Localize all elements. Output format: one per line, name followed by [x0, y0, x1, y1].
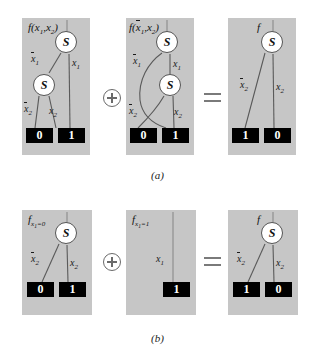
panel-a3: f S x2 x2 1 0: [228, 18, 296, 155]
terminal-value: 1: [173, 128, 179, 143]
panel-b2-function-sub: x1=1: [135, 220, 149, 228]
panel-b1-edge-label-x2: x2: [70, 258, 78, 271]
panel-a1-edge-label-notx2: x2: [24, 104, 32, 117]
panel-a2-terminal-0: 0: [130, 128, 157, 143]
terminal-value: 1: [70, 282, 76, 297]
panel-a1-node-top: S: [55, 31, 77, 53]
panel-b1-node-top: S: [55, 222, 77, 244]
caption-b: (b): [0, 333, 315, 344]
panel-a2-node-top: S: [156, 31, 178, 53]
terminal-value: 0: [37, 128, 43, 143]
panel-b2-terminal-1: 1: [163, 282, 190, 297]
panel-a3-edge-label-x2: x2: [276, 82, 284, 95]
panel-a1-edge-label-notx1: x1: [31, 54, 39, 67]
panel-b3-terminal-1: 1: [233, 282, 260, 297]
panel-b2: fx1=1 x1 1: [126, 210, 196, 315]
terminal-value: 0: [275, 128, 281, 143]
panel-a2-terminal-1: 1: [162, 128, 189, 143]
terminal-value: 0: [276, 282, 282, 297]
equals-icon: [204, 257, 221, 266]
panel-a3-terminal-1: 1: [232, 128, 259, 143]
node-symbol: S: [41, 79, 48, 91]
panel-a2-node-lower: S: [159, 74, 181, 96]
terminal-value: 1: [243, 128, 249, 143]
panel-b1: fx1=0 S x2 x2 0 1: [22, 210, 92, 315]
caption-a: (a): [0, 170, 315, 181]
panel-b1-terminal-0: 0: [27, 282, 54, 297]
terminal-value: 1: [174, 282, 180, 297]
panel-a1-edge-label-x1: x1: [72, 58, 80, 71]
panel-b2-function-label: fx1=1: [132, 214, 149, 230]
panel-b1-function-sub: x1=0: [31, 220, 45, 228]
panel-a1-terminal-1: 1: [58, 128, 85, 143]
panel-b3-terminal-0: 0: [265, 282, 292, 297]
panel-a2: f(x1,x2) S S x1 x1 x2 x2 0 1: [126, 18, 194, 155]
panel-a3-edge-label-notx2: x2: [240, 80, 248, 93]
node-symbol: S: [63, 227, 70, 239]
panel-b3: f S x2 x2 1 0: [228, 210, 298, 315]
panel-a1-function-label: f(x1,x2): [28, 22, 58, 36]
node-symbol: S: [164, 36, 171, 48]
panel-a1-node-lower: S: [33, 74, 55, 96]
panel-b1-terminal-1: 1: [59, 282, 86, 297]
panel-b1-function-label: fx1=0: [28, 214, 45, 230]
panel-a2-function-args: (x1,x2): [132, 21, 159, 33]
panel-b3-node-top: S: [261, 222, 283, 244]
terminal-value: 1: [69, 128, 75, 143]
panel-a1-edge-label-x2: x2: [49, 106, 57, 119]
panel-a3-function-f: f: [257, 21, 260, 33]
panel-a3-node-top: S: [261, 31, 283, 53]
plus-circle-icon: [103, 89, 121, 107]
panel-b3-function-label: f: [257, 214, 260, 225]
panel-b3-function-f: f: [257, 213, 260, 225]
terminal-value: 0: [38, 282, 44, 297]
panel-a1-terminal-0: 0: [26, 128, 53, 143]
node-symbol: S: [269, 36, 276, 48]
terminal-value: 1: [244, 282, 250, 297]
terminal-value: 0: [141, 128, 147, 143]
panel-a2-edge-label-notx1: x1: [133, 56, 141, 69]
panel-a3-terminal-0: 0: [264, 128, 291, 143]
equals-icon: [204, 93, 221, 102]
bdd-figure: f(x1,x2) S S x1 x1 x2 x2 0 1: [0, 0, 315, 361]
node-symbol: S: [167, 79, 174, 91]
panel-b2-edge-label-x1: x1: [156, 254, 164, 267]
panel-a2-edge-label-x1: x1: [173, 59, 181, 72]
panel-a1-function-args: (x1,x2): [31, 21, 58, 33]
plus-circle-icon: [103, 253, 121, 271]
node-symbol: S: [269, 227, 276, 239]
panel-a1: f(x1,x2) S S x1 x1 x2 x2 0 1: [22, 18, 90, 155]
panel-a2-edge-label-x2: x2: [174, 107, 182, 120]
node-symbol: S: [63, 36, 70, 48]
panel-a2-function-label: f(x1,x2): [129, 22, 159, 36]
panel-b3-edge-label-notx2: x2: [237, 254, 245, 267]
panel-b3-edge-label-x2: x2: [276, 258, 284, 271]
panel-a3-function-label: f: [257, 22, 260, 33]
panel-b1-edge-label-notx2: x2: [31, 254, 39, 267]
panel-a2-edge-label-notx2: x2: [129, 106, 137, 119]
